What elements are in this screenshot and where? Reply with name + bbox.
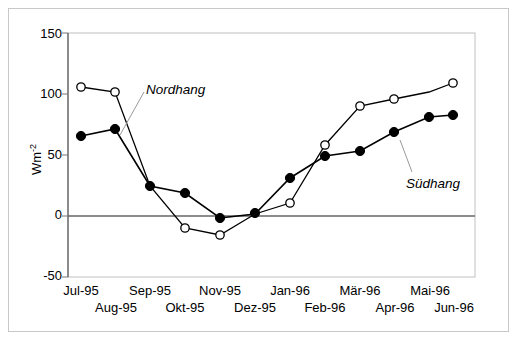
series-markers-suedhang [76,110,457,222]
plot-frame [68,33,475,277]
chart-plot-container: Wm-2 150 100 50 0 -50 Jul-95 Sep-95 Nov-… [0,0,519,342]
chart-svg-layer [0,0,519,342]
annotation-leader-suedhang [400,140,412,172]
y-axis-ticks [62,33,68,277]
chart-screenshot: Wm-2 150 100 50 0 -50 Jul-95 Sep-95 Nov-… [0,0,519,342]
